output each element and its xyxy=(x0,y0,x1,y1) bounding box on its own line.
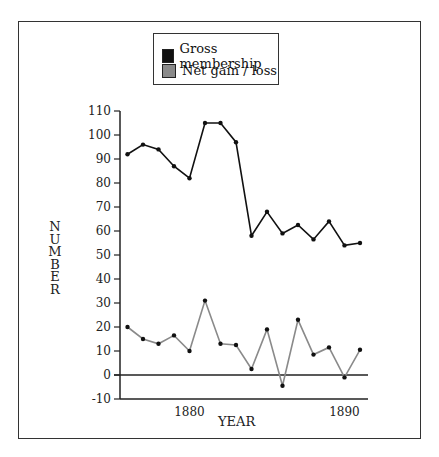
y-tick-label: 100 xyxy=(88,128,111,142)
y-tick-label: 80 xyxy=(96,176,111,190)
y-tick-label: 60 xyxy=(96,224,111,238)
data-point xyxy=(327,219,331,223)
data-point xyxy=(156,342,160,346)
data-point xyxy=(280,231,284,235)
data-point xyxy=(311,237,315,241)
data-point xyxy=(280,384,284,388)
data-point xyxy=(234,343,238,347)
data-point xyxy=(327,345,331,349)
y-tick-label: -10 xyxy=(92,392,111,406)
y-tick-label: 10 xyxy=(96,344,111,358)
net-gain-loss-line xyxy=(128,301,361,386)
data-point xyxy=(187,176,191,180)
data-point xyxy=(172,333,176,337)
data-point xyxy=(172,164,176,168)
data-point xyxy=(311,352,315,356)
y-tick-label: 110 xyxy=(88,104,111,118)
data-point xyxy=(342,243,346,247)
data-point xyxy=(358,348,362,352)
data-point xyxy=(203,121,207,125)
data-point xyxy=(156,147,160,151)
y-tick-label: 0 xyxy=(103,368,111,382)
data-point xyxy=(187,349,191,353)
data-point xyxy=(342,375,346,379)
data-point xyxy=(296,223,300,227)
y-tick-label: 30 xyxy=(96,296,111,310)
data-point xyxy=(265,210,269,214)
y-tick-label: 70 xyxy=(96,200,111,214)
x-tick-label: 1890 xyxy=(329,405,360,419)
data-point xyxy=(141,337,145,341)
data-point xyxy=(218,121,222,125)
data-point xyxy=(249,367,253,371)
data-point xyxy=(234,140,238,144)
data-point xyxy=(249,234,253,238)
data-point xyxy=(296,318,300,322)
data-point xyxy=(125,325,129,329)
x-axis-label: YEAR xyxy=(218,414,255,429)
y-tick-label: 90 xyxy=(96,152,111,166)
data-point xyxy=(265,327,269,331)
data-point xyxy=(203,298,207,302)
y-tick-label: 50 xyxy=(96,248,111,262)
x-tick-label: 1880 xyxy=(174,405,205,419)
data-point xyxy=(358,241,362,245)
line-chart: 1101009080706050403020100-1018801890 xyxy=(0,0,439,457)
data-point xyxy=(141,142,145,146)
gross-membership-line xyxy=(128,123,361,245)
data-point xyxy=(218,342,222,346)
data-point xyxy=(125,152,129,156)
y-axis-label: NUMBER xyxy=(48,221,62,296)
y-tick-label: 40 xyxy=(96,272,111,286)
y-tick-label: 20 xyxy=(96,320,111,334)
